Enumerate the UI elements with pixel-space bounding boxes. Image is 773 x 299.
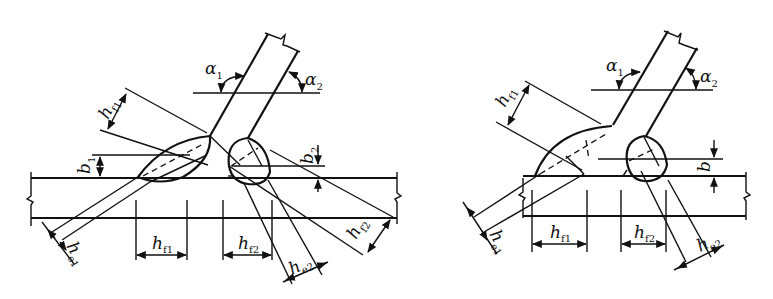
right-panel: α1 α2 b hf1 — [463, 31, 750, 270]
right-plate — [519, 172, 750, 220]
weld-diagram: α1 α2 b1 b2 — [0, 0, 773, 299]
label-alpha1-right: α1 — [606, 55, 624, 78]
left-he2-dimension — [244, 180, 328, 284]
label-he1-right: he1 — [483, 226, 515, 258]
left-panel: α1 α2 b1 b2 — [27, 33, 401, 284]
label-alpha1-left: α1 — [205, 58, 223, 81]
label-alpha2-right: α2 — [700, 66, 718, 89]
label-alpha2-left: α2 — [305, 69, 323, 92]
label-hf2-left: hf2 — [238, 233, 259, 255]
label-hf1-inclined-right: hf1 — [491, 82, 521, 111]
left-he1-dimension — [42, 177, 150, 264]
label-hf1-right: hf1 — [550, 222, 571, 244]
label-hf1-left: hf1 — [152, 233, 173, 255]
right-he2-dimension — [641, 171, 724, 270]
label-b-right: b — [694, 161, 714, 172]
left-brace — [210, 33, 300, 138]
left-plate — [27, 172, 401, 226]
right-hf2-dimension — [621, 190, 666, 252]
left-hf1-inclined-dimension — [100, 88, 208, 165]
label-hf2-right: hf2 — [634, 222, 655, 244]
label-hf1-inclined-left: hf1 — [94, 94, 124, 123]
right-brace — [613, 31, 698, 136]
label-b2: b2 — [297, 147, 320, 164]
label-b1: b1 — [74, 157, 97, 174]
label-he1-left: he1 — [60, 238, 92, 270]
